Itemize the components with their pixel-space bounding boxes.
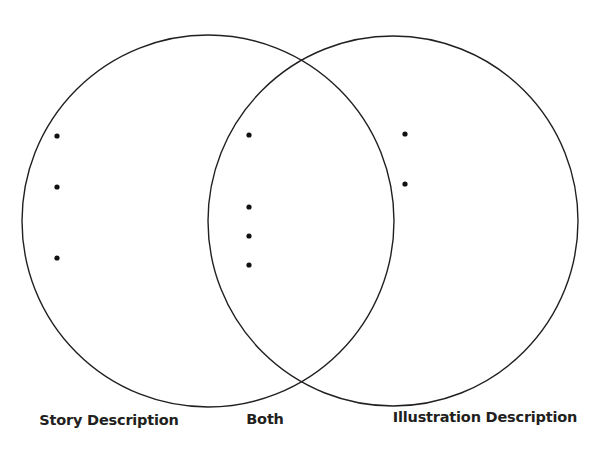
both-bullet-icon [246,204,251,209]
venn-diagram [0,0,594,457]
story-description-label: Story Description [39,412,178,428]
story-only-bullet-icon [54,133,59,138]
story-only-bullet-icon [54,184,59,189]
both-bullet-icon [246,233,251,238]
both-bullet-icon [246,262,251,267]
both-label: Both [246,411,283,427]
illustration-circle [208,36,578,406]
both-bullet-icon [246,132,251,137]
illustration-only-bullet-icon [402,131,407,136]
illustration-description-label: Illustration Description [393,409,577,425]
illustration-only-bullet-icon [402,181,407,186]
story-only-bullet-icon [54,255,59,260]
bullet-points [54,131,407,267]
